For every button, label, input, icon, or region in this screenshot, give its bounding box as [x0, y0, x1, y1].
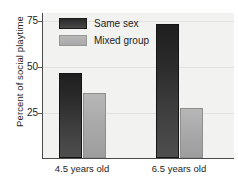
legend-swatch-mixed-group-icon [59, 35, 87, 46]
plot-area: Same sex Mixed group [42, 13, 234, 159]
bar-mixed-group-4-5 [83, 93, 106, 158]
legend-label-same-sex: Same sex [94, 18, 138, 29]
legend-item-mixed-group: Mixed group [59, 35, 149, 46]
bar-same-sex-6-5 [156, 24, 179, 158]
bar-chart-figure: Percent of social playtime 75 50 25 Same… [0, 0, 238, 187]
bar-same-sex-4-5 [59, 73, 82, 158]
x-axis-tick-labels: 4.5 years old 6.5 years old [42, 163, 234, 183]
y-tick-label-75: 75 [12, 16, 38, 26]
legend-item-same-sex: Same sex [59, 18, 149, 29]
y-tick-label-25: 25 [12, 108, 38, 118]
x-tick-label-6-5: 6.5 years old [152, 163, 206, 174]
legend-label-mixed-group: Mixed group [94, 35, 149, 46]
legend: Same sex Mixed group [59, 18, 149, 52]
gridline-50 [43, 67, 234, 68]
legend-swatch-same-sex-icon [59, 18, 87, 29]
bar-mixed-group-6-5 [180, 108, 203, 158]
x-tick-label-4-5: 4.5 years old [55, 163, 109, 174]
y-tick-label-50: 50 [12, 62, 38, 72]
y-axis-tick-labels: 75 50 25 [12, 0, 38, 187]
